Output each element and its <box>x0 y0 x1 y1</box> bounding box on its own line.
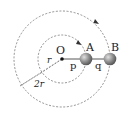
ball-b-label: B <box>111 41 119 54</box>
segment-q-label: q <box>95 60 102 71</box>
small-orbit-arrow-icon <box>76 40 82 45</box>
segment-p-label: p <box>70 60 76 71</box>
center-point <box>60 57 64 61</box>
circular-motion-diagram: O A B p q r 2r <box>0 0 130 117</box>
radius-small-label: r <box>47 55 52 65</box>
ball-a-label: A <box>85 41 95 54</box>
ball-b <box>104 53 117 66</box>
ball-a <box>80 53 93 66</box>
radius-large-label: 2r <box>33 79 45 89</box>
center-label: O <box>56 44 65 57</box>
